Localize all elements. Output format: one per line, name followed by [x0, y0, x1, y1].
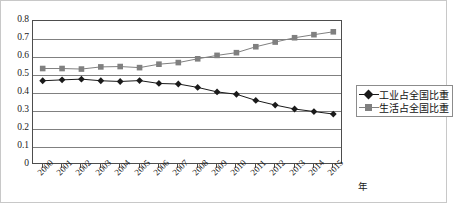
x-axis-tick-label: 2002	[74, 158, 93, 177]
x-axis-tick-label: 2009	[210, 158, 229, 177]
x-axis-tick-label: 2003	[94, 158, 113, 177]
x-axis-tick-label: 2012	[268, 158, 287, 177]
x-axis-tick-label: 2013	[288, 158, 307, 177]
x-axis-tick-label: 2004	[113, 158, 132, 177]
diamond-marker-icon	[359, 89, 379, 100]
chart-figure: 0.80.70.60.50.40.30.20.10 20002001200220…	[0, 0, 447, 203]
legend-label-living: 生活占全国比重	[379, 100, 449, 115]
x-axis-tick-label: 2008	[191, 158, 210, 177]
x-axis-tick-label: 2006	[152, 158, 171, 177]
x-axis-tick-label: 2001	[55, 158, 74, 177]
x-axis-tick-label: 2007	[171, 158, 190, 177]
x-axis-tick-label: 2010	[229, 158, 248, 177]
x-axis-tick-label: 2005	[133, 158, 152, 177]
legend-item-living[interactable]: 生活占全国比重	[359, 101, 449, 114]
x-axis-title: 年	[358, 179, 368, 193]
x-axis-tick-label: 2015	[326, 158, 345, 177]
square-marker-icon	[359, 102, 379, 113]
chart-legend: 工业占全国比重 生活占全国比重	[356, 85, 453, 117]
x-axis-tick-label: 2000	[36, 158, 55, 177]
x-axis-tick-label: 2011	[249, 159, 268, 178]
x-axis-tick-label: 2014	[307, 158, 326, 177]
